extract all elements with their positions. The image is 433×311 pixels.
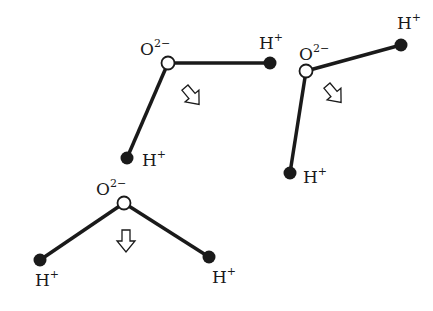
oxygen-label: O2−	[96, 177, 126, 199]
oxygen-atom	[300, 65, 313, 78]
hydrogen-atom	[34, 254, 47, 267]
dipole-arrow-icon	[117, 230, 135, 252]
hydrogen-label: H+	[35, 268, 59, 290]
hydrogen-atom	[264, 57, 277, 70]
dipole-arrow-icon	[320, 80, 348, 108]
oxygen-atom	[162, 57, 175, 70]
bond	[290, 71, 306, 173]
oxygen-label: O2−	[140, 37, 170, 59]
oxygen-atom	[118, 197, 131, 210]
hydrogen-label: H+	[259, 31, 283, 53]
hydrogen-label: H+	[142, 148, 166, 170]
hydrogen-atom	[203, 251, 216, 264]
hydrogen-atom	[121, 152, 134, 165]
bond	[124, 203, 209, 257]
hydrogen-atom	[395, 39, 408, 52]
hydrogen-atom	[284, 167, 297, 180]
oxygen-label: O2−	[299, 42, 329, 64]
bond	[127, 63, 168, 158]
molecule-1: O2− H+ H+	[121, 31, 284, 170]
dipole-arrow-icon	[178, 82, 206, 110]
water-molecules-diagram: O2− H+ H+ O2− H+ H+ O2− H+ H+	[0, 0, 433, 311]
molecule-3: O2− H+ H+	[34, 177, 237, 290]
molecule-2: O2− H+ H+	[284, 11, 422, 187]
hydrogen-label: H+	[397, 11, 421, 33]
hydrogen-label: H+	[303, 165, 327, 187]
bond	[40, 203, 124, 260]
hydrogen-label: H+	[212, 265, 236, 287]
